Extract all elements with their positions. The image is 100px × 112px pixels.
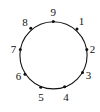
point-dot-4: [63, 85, 66, 88]
point-label-1: 1: [79, 15, 85, 27]
point-dot-9: [52, 20, 55, 23]
point-dot-6: [24, 73, 27, 76]
point-label-7: 7: [11, 43, 17, 55]
point-dot-7: [19, 48, 22, 51]
point-dot-3: [81, 71, 84, 74]
circle-diagram: 912345678: [0, 0, 100, 112]
point-label-4: 4: [63, 91, 69, 103]
point-label-3: 3: [86, 69, 92, 81]
point-dot-2: [85, 48, 88, 51]
point-label-5: 5: [38, 91, 44, 103]
point-dot-8: [29, 27, 32, 30]
point-dot-1: [76, 28, 79, 31]
point-label-6: 6: [16, 70, 22, 82]
point-dot-5: [39, 86, 42, 89]
circle-outline: [20, 22, 87, 89]
point-label-2: 2: [90, 43, 96, 55]
point-label-8: 8: [22, 16, 28, 28]
point-label-9: 9: [51, 6, 57, 18]
